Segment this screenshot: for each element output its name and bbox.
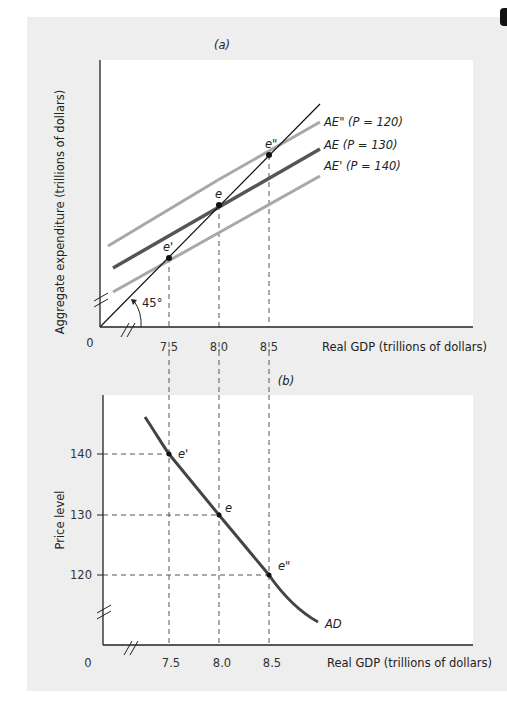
point-e-b: [217, 513, 222, 518]
label-e-a: e: [215, 187, 222, 201]
point-e-double-prime-b: [267, 573, 272, 578]
panel-a-xlabel: Real GDP (trillions of dollars): [322, 340, 487, 354]
panel-b-ytick-marks: [97, 454, 103, 575]
label-e-prime-a: e': [163, 240, 173, 254]
label-e-b: e: [225, 501, 232, 515]
label-ae-prime: AE' (P = 140): [323, 159, 401, 173]
point-e-prime-a: [166, 255, 172, 261]
label-ae: AE (P = 130): [323, 138, 398, 152]
label-e-double-prime-a: e": [265, 137, 277, 151]
panel-a-label: (a): [214, 38, 230, 52]
point-e-a: [216, 202, 222, 208]
panel-b-xtick-8-0: 8.0: [213, 656, 231, 670]
panel-a-xtick-8-0: 8.0: [210, 340, 228, 354]
panel-a-origin-label: 0: [86, 336, 93, 350]
panel-b-ylabel: Price level: [53, 490, 67, 549]
panel-b-ytick-140: 140: [70, 447, 92, 461]
panel-b-xtick-8-5: 8.5: [263, 656, 281, 670]
panel-a-xtick-7-5: 7.5: [160, 340, 178, 354]
panel-b-xlabel: Real GDP (trillions of dollars): [327, 656, 492, 670]
figure-svg: (a) Aggregate expenditure (trillions of …: [0, 0, 507, 715]
point-e-prime-b: [167, 452, 172, 457]
angle-label: 45°: [142, 296, 162, 310]
panel-a-ylabel: Aggregate expenditure (trillions of doll…: [53, 90, 67, 335]
panel-b-plot-area: [103, 395, 473, 645]
label-ae-double-prime: AE" (P = 120): [323, 115, 403, 129]
label-e-prime-b: e': [178, 447, 188, 461]
panel-b-ytick-120: 120: [70, 568, 92, 582]
panel-b-label: (b): [278, 374, 294, 388]
panel-b-origin-label: 0: [84, 656, 91, 670]
label-ad: AD: [324, 617, 342, 631]
point-e-double-prime-a: [266, 152, 272, 158]
panel-b-xtick-7-5: 7.5: [162, 656, 180, 670]
panel-a-xtick-8-5: 8.5: [260, 340, 278, 354]
label-e-double-prime-b: e": [278, 559, 290, 573]
panel-b-ytick-130: 130: [70, 508, 92, 522]
